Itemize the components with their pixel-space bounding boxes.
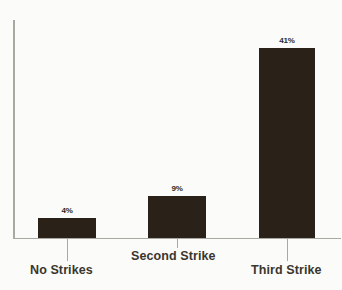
bar-value-label: 4% (38, 206, 96, 215)
bar-value-label: 41% (259, 36, 315, 45)
category-label: Second Strike (131, 249, 216, 263)
bar (148, 196, 206, 238)
category-label: No Strikes (30, 263, 93, 277)
y-axis-line (13, 20, 15, 239)
bar-chart: 4%No Strikes9%Second Strike41%Third Stri… (0, 0, 342, 290)
bar (38, 218, 96, 238)
category-tick-line (177, 239, 178, 248)
category-label: Third Strike (251, 263, 322, 277)
category-tick-line (287, 239, 288, 261)
bar (259, 48, 315, 238)
category-tick-line (67, 239, 68, 261)
bar-value-label: 9% (148, 184, 206, 193)
